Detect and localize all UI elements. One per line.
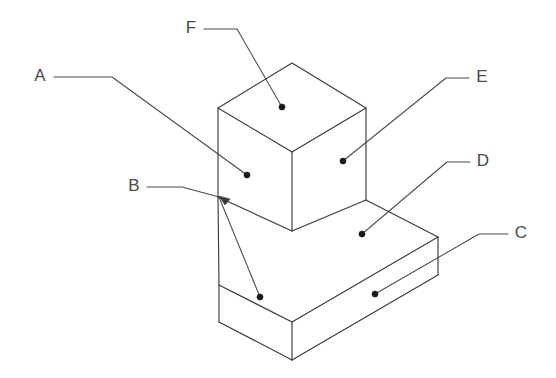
base-slab — [218, 197, 438, 360]
callout-dot-e — [340, 158, 346, 164]
callout-label-a[interactable]: A — [34, 66, 46, 85]
isometric-block-diagram: A B C D E F — [0, 0, 556, 378]
callout-dot-a — [244, 172, 250, 178]
solid-body — [218, 63, 438, 360]
callout-dot-b — [257, 294, 263, 300]
callout-dot-d — [359, 231, 365, 237]
callout-label-b[interactable]: B — [128, 176, 140, 195]
callout-label-d[interactable]: D — [477, 151, 490, 170]
callout-label-f[interactable]: F — [186, 18, 197, 37]
callout-dot-c — [372, 291, 378, 297]
diagram-canvas: A B C D E F — [0, 0, 556, 378]
callout-label-e[interactable]: E — [476, 67, 488, 86]
callout-label-c[interactable]: C — [515, 223, 528, 242]
leader-line-b — [147, 187, 219, 197]
callout-dot-f — [279, 104, 285, 110]
